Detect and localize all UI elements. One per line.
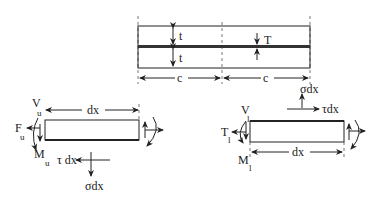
lower-thickness-label: t — [179, 51, 183, 65]
upper-element-body — [45, 120, 139, 140]
upper-moment-label: M — [34, 147, 45, 161]
lower-moment-sub: l — [249, 163, 252, 173]
c-left-label: c — [177, 71, 182, 85]
upper-axial-sub: u — [20, 132, 25, 142]
upper-shear-stress-label: τ dx — [57, 153, 77, 167]
upper-shear-sub: u — [37, 108, 42, 118]
upper-moment-arrow — [33, 118, 38, 150]
upper-normal-stress-label: σdx — [85, 179, 103, 193]
c-right-label: c — [263, 71, 268, 85]
lower-moment-label: M — [238, 153, 249, 167]
lower-right-moment-arrow — [351, 120, 359, 149]
upper-moment-sub: u — [45, 158, 50, 168]
upper-thickness-label: t — [179, 29, 183, 43]
lower-element-body — [250, 121, 344, 142]
adhesive-thickness-label: T — [264, 33, 272, 47]
lower-axial-sub: l — [228, 135, 231, 145]
lower-normal-stress-label: σdx — [300, 82, 318, 96]
lower-element-fbd: σdx τdx V l T l M l dx — [221, 82, 365, 173]
upper-dx-label: dx — [87, 103, 99, 117]
sandwich-beam-diagram: t t T c c dx V u F u M u — [0, 0, 381, 197]
top-assembly: t t T c c — [138, 16, 310, 85]
lower-shear-stress-label: τdx — [322, 102, 339, 116]
lower-dx-label: dx — [292, 145, 304, 159]
adhesive-layer — [138, 45, 310, 48]
upper-element-fbd: dx V u F u M u τ dx σdx — [15, 96, 163, 193]
upper-right-moment-arrow — [147, 117, 156, 146]
